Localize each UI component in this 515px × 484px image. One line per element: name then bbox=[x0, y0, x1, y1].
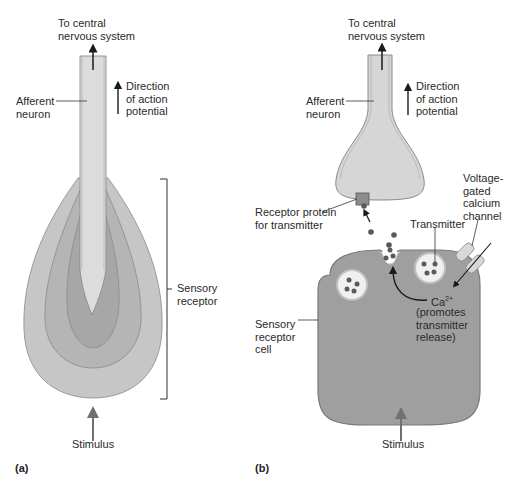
label-transmitter: Transmitter bbox=[410, 218, 465, 231]
label-to-cns-b: To central nervous system bbox=[348, 17, 425, 42]
afferent-neuron-a bbox=[80, 56, 106, 315]
label-stimulus-b: Stimulus bbox=[382, 438, 424, 451]
receptor-protein bbox=[356, 193, 369, 205]
vesicle-right bbox=[415, 253, 445, 283]
panel-tag-a: (a) bbox=[15, 462, 28, 474]
diagram-canvas bbox=[0, 0, 515, 484]
label-direction-a: Direction of action potential bbox=[126, 80, 169, 118]
label-receptor-protein: Receptor protein for transmitter bbox=[255, 206, 336, 231]
label-to-cns-a: To central nervous system bbox=[58, 17, 135, 42]
afferent-neuron-b bbox=[336, 55, 424, 200]
label-sensory-receptor: Sensory receptor bbox=[177, 282, 217, 307]
panel-tag-b: (b) bbox=[255, 462, 269, 474]
label-afferent-a: Afferent neuron bbox=[16, 95, 54, 120]
label-afferent-b: Afferent neuron bbox=[306, 95, 344, 120]
vesicle-left bbox=[337, 270, 367, 300]
label-direction-b: Direction of action potential bbox=[416, 80, 459, 118]
label-ca-note: (promotes transmitter release) bbox=[416, 306, 468, 344]
label-voltage-channel: Voltage- gated calcium channel bbox=[463, 172, 503, 222]
label-sensory-cell: Sensory receptor cell bbox=[255, 318, 295, 356]
label-stimulus-a: Stimulus bbox=[72, 438, 114, 451]
sensory-receptor-bracket bbox=[160, 179, 167, 399]
